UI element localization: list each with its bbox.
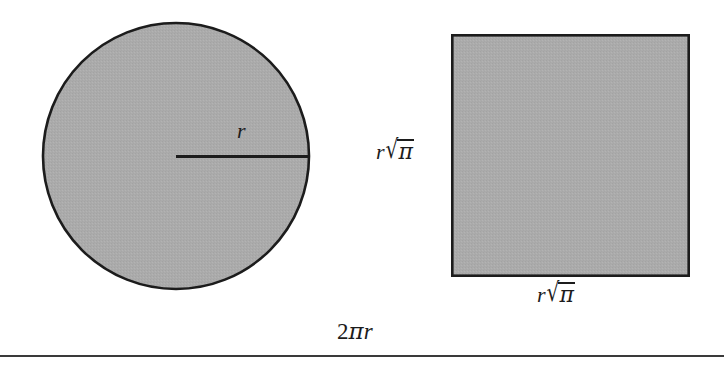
square-height-radicand: π — [398, 141, 414, 163]
radius-label: r — [237, 120, 246, 142]
radius-label-variable: r — [237, 118, 246, 143]
circumference-coefficient: 2 — [337, 319, 349, 344]
square-width-label: r√π — [537, 284, 575, 306]
circumference-label: 2πr — [337, 320, 373, 343]
square-width-variable: r — [537, 282, 546, 307]
radical-sign-icon: √ — [546, 280, 559, 306]
square-width-radical: √π — [546, 284, 576, 306]
square-shape — [452, 35, 688, 275]
square-height-label: r√π — [376, 141, 414, 163]
circumference-variable: r — [364, 319, 373, 344]
square-height-radical: √π — [385, 141, 415, 163]
figure-canvas: r r√π r√π 2πr — [0, 0, 724, 372]
figure-graphics — [0, 0, 724, 372]
circumference-pi: π — [349, 318, 364, 344]
square-width-radicand: π — [559, 284, 575, 306]
radical-sign-icon: √ — [385, 137, 398, 163]
square-height-variable: r — [376, 139, 385, 164]
